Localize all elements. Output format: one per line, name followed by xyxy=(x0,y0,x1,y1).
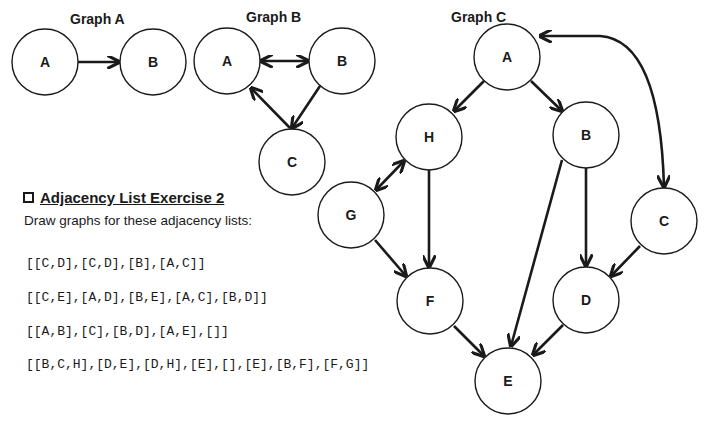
edge-c-a-b xyxy=(531,81,562,111)
edge-b-b-c xyxy=(292,86,320,128)
graph-c-node-f: F xyxy=(397,268,463,334)
node-label: B xyxy=(337,53,347,69)
adjacency-list-4: [[B,C,H],[D,E],[D,H],[E],[],[E],[B,F],[F… xyxy=(26,357,369,372)
graph-c-node-d: D xyxy=(553,267,619,333)
graph-c-node-g: G xyxy=(318,182,384,248)
graph-b-node-a: A xyxy=(194,28,260,94)
node-label: F xyxy=(426,293,435,309)
adjacency-list-1: [[C,D],[C,D],[B],[A,C]] xyxy=(26,256,205,271)
node-label: A xyxy=(40,54,50,70)
node-label: B xyxy=(148,54,158,70)
graph-b-node-b: B xyxy=(309,28,375,94)
graph-b-title: Graph B xyxy=(246,9,301,25)
adjacency-list-3: [[A,B],[C],[B,D],[A,E],[]] xyxy=(26,324,229,339)
graph-c-node-e: E xyxy=(475,348,541,414)
edge-c-c-d xyxy=(611,246,640,276)
node-label: C xyxy=(659,213,669,229)
node-label: H xyxy=(424,129,434,145)
exercise-instructions: Draw graphs for these adjacency lists: xyxy=(24,213,252,228)
exercise-title: Adjacency List Exercise 2 xyxy=(40,189,224,206)
graph-c-title: Graph C xyxy=(451,9,506,25)
edge-c-d-e xyxy=(533,325,563,355)
graph-a-node-b: B xyxy=(120,29,186,95)
node-label: E xyxy=(503,373,512,389)
checkbox-icon[interactable] xyxy=(23,192,34,203)
graph-c-node-c: C xyxy=(631,188,697,254)
graph-b-node-c: C xyxy=(259,129,325,195)
graph-a-title: Graph A xyxy=(70,11,125,27)
edge-c-a-h xyxy=(454,81,484,111)
edge-c-b-e xyxy=(511,160,562,346)
graph-a-node-a: A xyxy=(12,29,78,95)
edge-c-g-f xyxy=(375,240,406,276)
edge-b-c-a xyxy=(251,88,290,128)
graph-c-node-b: B xyxy=(553,102,619,168)
node-label: B xyxy=(581,127,591,143)
node-label: C xyxy=(287,154,297,170)
graph-c-node-h: H xyxy=(396,104,462,170)
node-label: D xyxy=(581,292,591,308)
adjacency-list-2: [[C,E],[A,D],[B,E],[A,C],[B,D]] xyxy=(26,290,268,305)
exercise-heading: Adjacency List Exercise 2 xyxy=(23,189,224,206)
node-label: A xyxy=(222,53,232,69)
graph-c-node-a: A xyxy=(474,24,540,90)
edge-c-f-e xyxy=(454,326,484,356)
edge-c-h-g xyxy=(376,161,404,190)
node-label: G xyxy=(346,207,357,223)
node-label: A xyxy=(502,49,512,65)
